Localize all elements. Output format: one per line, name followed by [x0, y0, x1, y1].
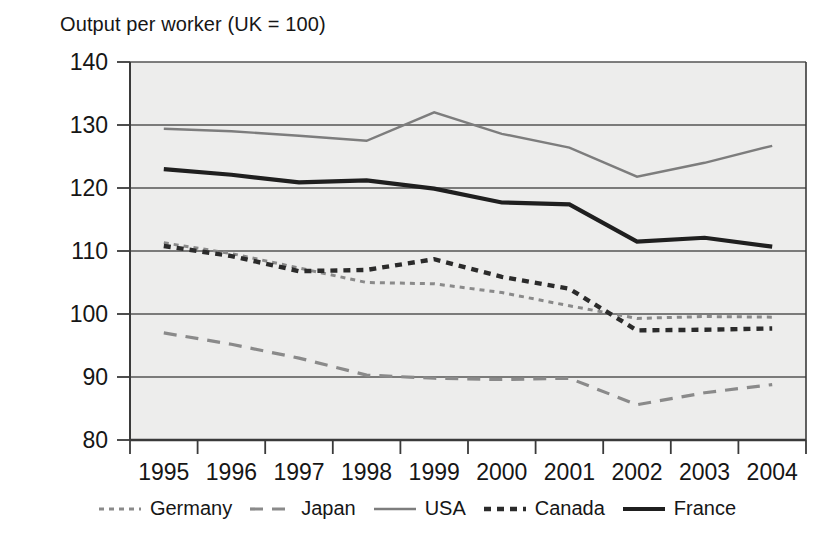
ytick-label-80: 80 — [82, 427, 108, 453]
legend-label-usa: USA — [425, 497, 466, 520]
xtick-label-1999: 1999 — [409, 459, 460, 485]
ytick-label-90: 90 — [82, 364, 108, 390]
chart-legend: GermanyJapanUSACanadaFrance — [0, 497, 835, 520]
xtick-label-1996: 1996 — [206, 459, 257, 485]
xtick-label-2004: 2004 — [747, 459, 798, 485]
legend-swatch-usa-icon — [374, 502, 416, 516]
ytick-label-120: 120 — [70, 175, 108, 201]
legend-item-canada[interactable]: Canada — [484, 497, 605, 520]
legend-item-usa[interactable]: USA — [374, 497, 466, 520]
legend-swatch-germany-icon — [99, 502, 141, 516]
chart-figure: Output per worker (UK = 100) 80901001101… — [0, 0, 835, 549]
legend-item-germany[interactable]: Germany — [99, 497, 232, 520]
xtick-label-2002: 2002 — [611, 459, 662, 485]
ytick-label-130: 130 — [70, 112, 108, 138]
xtick-label-1995: 1995 — [138, 459, 189, 485]
xtick-label-1997: 1997 — [273, 459, 324, 485]
xtick-label-2003: 2003 — [679, 459, 730, 485]
legend-item-japan[interactable]: Japan — [250, 497, 356, 520]
ytick-label-140: 140 — [70, 49, 108, 75]
legend-label-canada: Canada — [535, 497, 605, 520]
xtick-label-2001: 2001 — [544, 459, 595, 485]
legend-swatch-canada-icon — [484, 502, 526, 516]
xtick-label-1998: 1998 — [341, 459, 392, 485]
xtick-label-2000: 2000 — [476, 459, 527, 485]
legend-label-france: France — [674, 497, 736, 520]
legend-label-germany: Germany — [150, 497, 232, 520]
legend-swatch-france-icon — [623, 502, 665, 516]
ytick-label-100: 100 — [70, 301, 108, 327]
legend-label-japan: Japan — [301, 497, 356, 520]
ytick-label-110: 110 — [71, 238, 108, 264]
legend-item-france[interactable]: France — [623, 497, 736, 520]
legend-swatch-japan-icon — [250, 502, 292, 516]
line-chart-plot: 8090100110120130140199519961997199819992… — [0, 0, 835, 500]
